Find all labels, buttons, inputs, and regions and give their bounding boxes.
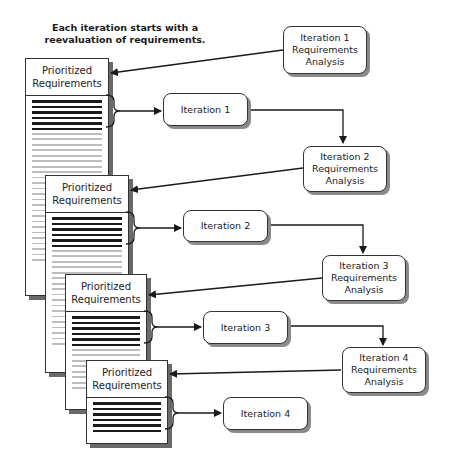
iteration-box-1: Iteration 1 xyxy=(163,93,248,126)
analysis-box-4: Iteration 4RequirementsAnalysis xyxy=(342,347,426,393)
analysis-box-2: Iteration 2RequirementsAnalysis xyxy=(303,146,387,192)
analysis-box-1: Iteration 1RequirementsAnalysis xyxy=(283,26,367,74)
iteration-box-2: Iteration 2 xyxy=(183,210,268,242)
analysis-box-3: Iteration 3RequirementsAnalysis xyxy=(322,255,406,301)
iteration-box-4: Iteration 4 xyxy=(223,397,308,430)
iteration-box-3: Iteration 3 xyxy=(203,311,288,344)
